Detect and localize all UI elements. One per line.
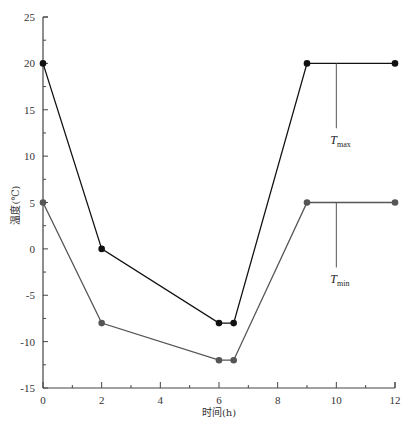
x-tick-label: 10 xyxy=(331,394,343,406)
data-series xyxy=(40,60,399,363)
data-point-max xyxy=(392,60,399,67)
y-tick-label: -15 xyxy=(20,382,35,394)
x-tick-label: 0 xyxy=(40,394,46,406)
annotations: TmaxTmin xyxy=(330,63,350,288)
y-tick-label: -5 xyxy=(26,289,36,301)
y-tick-label: 0 xyxy=(30,243,36,255)
data-point-max xyxy=(40,60,47,67)
data-point-max xyxy=(98,246,105,253)
y-tick-label: 20 xyxy=(24,57,36,69)
x-tick-label: 12 xyxy=(390,394,401,406)
data-point-min xyxy=(40,199,47,206)
data-point-min xyxy=(216,357,223,364)
annotation-label-min: Tmin xyxy=(330,272,349,288)
data-point-min xyxy=(392,199,399,206)
x-tick-label: 4 xyxy=(158,394,164,406)
axes: 2520151050-5-10-15024681012 xyxy=(20,11,400,406)
data-point-max xyxy=(216,320,223,327)
data-point-min xyxy=(98,320,105,327)
data-point-min xyxy=(230,357,237,364)
y-tick-label: 10 xyxy=(24,150,36,162)
x-axis-label: 时间(h) xyxy=(202,406,236,418)
y-tick-label: 15 xyxy=(24,104,36,116)
y-tick-label: 5 xyxy=(30,197,36,209)
y-axis-label: 温度(℃) xyxy=(9,185,21,224)
x-tick-label: 2 xyxy=(99,394,105,406)
temperature-chart: 2520151050-5-10-15024681012 TmaxTmin 时间(… xyxy=(0,0,409,431)
y-tick-label: -10 xyxy=(20,336,35,348)
y-tick-label: 25 xyxy=(24,11,36,23)
x-tick-label: 8 xyxy=(275,394,281,406)
data-point-max xyxy=(230,320,237,327)
data-point-max xyxy=(304,60,311,67)
x-tick-label: 6 xyxy=(216,394,222,406)
annotation-label-max: Tmax xyxy=(330,133,350,149)
data-point-min xyxy=(304,199,311,206)
